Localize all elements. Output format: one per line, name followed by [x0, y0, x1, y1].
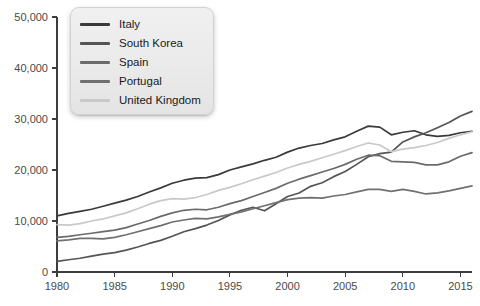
x-tick-label: 1980 — [45, 280, 69, 292]
legend-swatch-icon — [80, 99, 110, 102]
x-tick-label: 1990 — [160, 280, 184, 292]
legend-item-label: Italy — [119, 19, 140, 31]
x-tick-label: 1995 — [218, 280, 242, 292]
legend-item-portugal[interactable]: Portugal — [80, 72, 205, 91]
series-line-south-korea — [57, 111, 472, 261]
legend-item-spain[interactable]: Spain — [80, 53, 205, 72]
x-tick-label: 1985 — [102, 280, 126, 292]
legend-item-label: South Korea — [119, 38, 183, 50]
legend-item-united-kingdom[interactable]: United Kingdom — [80, 91, 205, 110]
x-tick-label: 2010 — [391, 280, 415, 292]
legend-swatch-icon — [80, 80, 110, 83]
legend-item-label: Portugal — [119, 76, 162, 88]
y-tick-label: 10,000 — [14, 215, 48, 227]
legend-item-label: Spain — [119, 57, 148, 69]
series-lines — [57, 111, 472, 261]
y-tick-label: 0 — [42, 266, 48, 278]
line-chart: 010,00020,00030,00040,00050,000 19801985… — [0, 0, 480, 306]
x-tick-label: 2000 — [275, 280, 299, 292]
y-tick-label: 20,000 — [14, 164, 48, 176]
legend-item-south-korea[interactable]: South Korea — [80, 34, 205, 53]
legend-swatch-icon — [80, 61, 110, 64]
x-tick-label: 2015 — [448, 280, 472, 292]
legend-swatch-icon — [80, 42, 110, 45]
y-tick-label: 40,000 — [14, 62, 48, 74]
y-axis: 010,00020,00030,00040,00050,000 — [14, 11, 57, 278]
x-axis: 19801985199019952000200520102015 — [45, 272, 473, 292]
legend-swatch-icon — [80, 23, 110, 26]
series-line-portugal — [57, 186, 472, 241]
x-tick-label: 2005 — [333, 280, 357, 292]
legend-item-label: United Kingdom — [119, 95, 201, 107]
legend-item-italy[interactable]: Italy — [80, 15, 205, 34]
y-tick-label: 30,000 — [14, 113, 48, 125]
chart-legend: ItalySouth KoreaSpainPortugalUnited King… — [70, 7, 214, 115]
series-line-spain — [57, 153, 472, 238]
y-tick-label: 50,000 — [14, 11, 48, 23]
